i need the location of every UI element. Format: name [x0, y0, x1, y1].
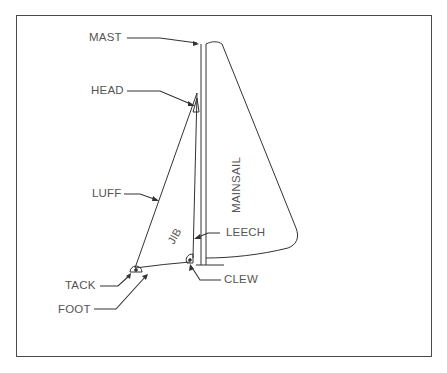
label-head: HEAD — [91, 85, 124, 97]
sail-diagram-graphic — [0, 0, 447, 373]
label-mast: MAST — [89, 32, 122, 44]
jib-leech-edge — [193, 93, 197, 258]
label-luff: LUFF — [92, 188, 122, 200]
luff-arrowhead — [152, 196, 159, 201]
label-leech: LEECH — [226, 227, 265, 239]
leech-arrowhead — [194, 234, 201, 239]
mast-arrowhead — [193, 41, 199, 46]
head-fitting — [193, 98, 199, 112]
label-foot: FOOT — [58, 304, 91, 316]
jib-luff-edge — [135, 93, 197, 268]
jib-foot-edge — [135, 262, 190, 268]
label-mainsail: MAINSAIL — [230, 157, 242, 213]
label-tack: TACK — [65, 280, 96, 292]
label-clew: CLEW — [224, 274, 258, 286]
